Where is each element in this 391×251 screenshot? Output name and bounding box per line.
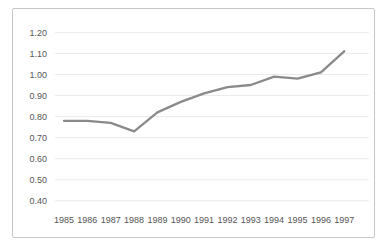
x-tick-label: 1993 xyxy=(241,215,261,225)
y-tick-label: 0.70 xyxy=(29,133,47,143)
x-tick-label: 1995 xyxy=(287,215,307,225)
data-line xyxy=(64,51,344,131)
y-tick-label: 0.50 xyxy=(29,175,47,185)
x-axis-labels: 1985198619871988198919901991199219931994… xyxy=(54,215,354,225)
y-tick-label: 1.00 xyxy=(29,70,47,80)
gridlines-group xyxy=(55,32,369,200)
y-tick-label: 0.40 xyxy=(29,196,47,206)
x-tick-label: 1994 xyxy=(264,215,284,225)
x-tick-label: 1985 xyxy=(54,215,74,225)
x-tick-label: 1990 xyxy=(171,215,191,225)
x-tick-label: 1996 xyxy=(311,215,331,225)
x-tick-label: 1991 xyxy=(194,215,214,225)
x-tick-label: 1989 xyxy=(147,215,167,225)
x-tick-label: 1997 xyxy=(334,215,354,225)
y-axis-labels: 1.201.101.000.900.800.700.600.500.40 xyxy=(29,28,47,206)
x-tick-label: 1986 xyxy=(77,215,97,225)
x-tick-label: 1988 xyxy=(124,215,144,225)
y-tick-label: 1.10 xyxy=(29,49,47,59)
y-tick-label: 0.60 xyxy=(29,154,47,164)
line-chart: 1.201.101.000.900.800.700.600.500.40 198… xyxy=(0,0,391,251)
y-tick-label: 1.20 xyxy=(29,28,47,38)
x-tick-label: 1992 xyxy=(217,215,237,225)
y-tick-label: 0.80 xyxy=(29,112,47,122)
data-series-group xyxy=(64,51,344,131)
x-tick-label: 1987 xyxy=(101,215,121,225)
y-tick-label: 0.90 xyxy=(29,91,47,101)
